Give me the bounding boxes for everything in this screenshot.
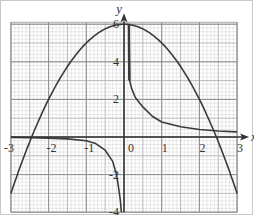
- y-tick-label: -4: [109, 205, 119, 215]
- x-tick-label: 0: [128, 141, 134, 155]
- x-tick-label: 1: [162, 141, 168, 155]
- x-tick-label: -1: [84, 141, 94, 155]
- y-tick-label: 2: [113, 92, 119, 106]
- x-tick-label: -2: [47, 141, 57, 155]
- chart-figure: -3-2-10123642-2-4xy: [0, 0, 254, 215]
- x-tick-label: 3: [237, 141, 243, 155]
- y-tick-label: 6: [113, 17, 119, 31]
- chart-plot: -3-2-10123642-2-4xy: [0, 0, 254, 215]
- x-tick-label: -3: [4, 141, 14, 155]
- y-tick-label: 4: [113, 55, 119, 69]
- x-tick-label: 2: [199, 141, 205, 155]
- y-tick-label: -2: [109, 168, 119, 182]
- y-axis-label: y: [114, 1, 122, 16]
- x-axis-label: x: [250, 129, 254, 144]
- curve-reciprocal-right-branch: [129, 24, 237, 132]
